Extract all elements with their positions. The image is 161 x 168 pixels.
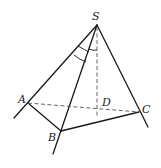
- label-B: B: [47, 131, 56, 144]
- label-S: S: [92, 10, 100, 23]
- edge-AC-hidden: [28, 103, 139, 112]
- angle-arc-ASB-outer: [78, 46, 89, 52]
- edge-SC: [97, 25, 148, 127]
- pyramid-diagram: S A B C D: [0, 0, 161, 168]
- label-A: A: [17, 93, 26, 106]
- edge-AB: [28, 103, 61, 131]
- angle-arc-ASB-inner: [74, 55, 86, 62]
- edge-BC: [61, 112, 139, 131]
- angle-arc-BSD: [89, 49, 97, 50]
- label-D: D: [101, 96, 111, 109]
- label-C: C: [142, 103, 151, 116]
- edge-SA: [14, 25, 97, 118]
- edge-SB: [53, 25, 97, 154]
